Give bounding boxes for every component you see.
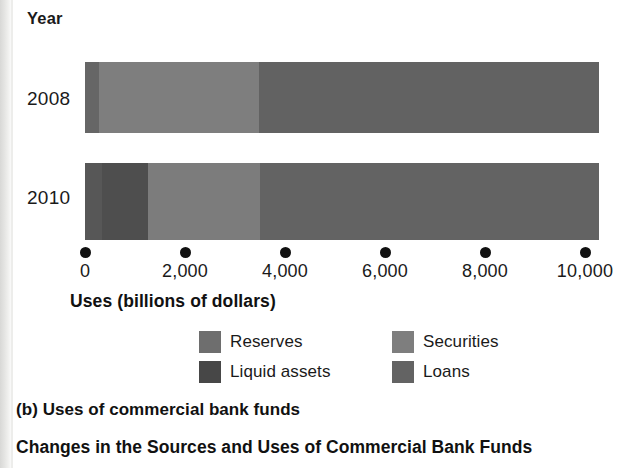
bar-group-2010 bbox=[85, 163, 599, 240]
x-tick-dot-0 bbox=[80, 247, 91, 258]
bar-track bbox=[85, 163, 599, 240]
legend-label: Securities bbox=[423, 332, 499, 352]
figure-chart-uses-of-commercial-bank-funds: Year 20082010 02,0004,0006,0008,00010,00… bbox=[0, 0, 641, 468]
legend-swatch-icon bbox=[199, 361, 221, 383]
x-axis: 02,0004,0006,0008,00010,000 bbox=[0, 247, 641, 293]
bar-segment-reserves bbox=[85, 62, 99, 133]
figure-title: Changes in the Sources and Uses of Comme… bbox=[16, 437, 532, 458]
legend-swatch-icon bbox=[199, 331, 221, 353]
bar-segment-securities bbox=[148, 163, 260, 240]
bar-group-2008 bbox=[85, 62, 599, 133]
plot-area: 20082010 bbox=[0, 0, 641, 260]
legend-item-liquid-assets: Liquid assets bbox=[199, 361, 331, 383]
y-tick-label-2010: 2010 bbox=[27, 187, 70, 209]
x-tick-dot-2000 bbox=[180, 247, 191, 258]
x-tick-dot-10000 bbox=[580, 247, 591, 258]
bar-segment-reserves bbox=[85, 163, 102, 240]
bar-track bbox=[85, 62, 599, 133]
x-tick-dot-4000 bbox=[280, 247, 291, 258]
bar-segment-securities bbox=[99, 62, 259, 133]
x-axis-title: Uses (billions of dollars) bbox=[70, 291, 276, 312]
legend-swatch-icon bbox=[392, 331, 414, 353]
x-tick-label-10000: 10,000 bbox=[557, 261, 613, 282]
bar-segment-loans bbox=[260, 163, 599, 240]
y-tick-label-2008: 2008 bbox=[27, 88, 70, 110]
legend-swatch-icon bbox=[392, 361, 414, 383]
legend-item-loans: Loans bbox=[392, 361, 470, 383]
panel-caption: (b) Uses of commercial bank funds bbox=[16, 400, 300, 420]
x-tick-label-0: 0 bbox=[80, 261, 90, 282]
bar-segment-loans bbox=[259, 62, 599, 133]
x-tick-label-6000: 6,000 bbox=[362, 261, 408, 282]
x-tick-label-4000: 4,000 bbox=[262, 261, 308, 282]
bar-segment-liquid-assets bbox=[102, 163, 148, 240]
legend-item-reserves: Reserves bbox=[199, 331, 303, 353]
chart-legend: ReservesSecuritiesLiquid assetsLoans bbox=[199, 331, 579, 389]
legend-item-securities: Securities bbox=[392, 331, 499, 353]
x-tick-label-2000: 2,000 bbox=[162, 261, 208, 282]
x-tick-dot-8000 bbox=[480, 247, 491, 258]
x-tick-dot-6000 bbox=[380, 247, 391, 258]
x-tick-label-8000: 8,000 bbox=[462, 261, 508, 282]
legend-label: Reserves bbox=[230, 332, 303, 352]
legend-label: Liquid assets bbox=[230, 362, 331, 382]
legend-label: Loans bbox=[423, 362, 470, 382]
